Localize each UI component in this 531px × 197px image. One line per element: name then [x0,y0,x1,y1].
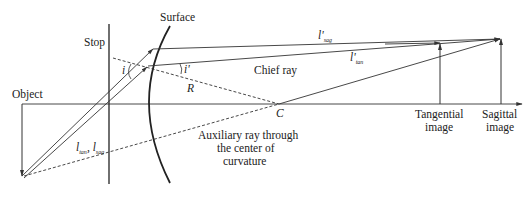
stop-label: Stop [84,36,105,49]
center-label: C [276,107,284,119]
angle-i-prime-arc [180,64,182,74]
angle-i-prime-label: i' [184,63,190,75]
surface-label: Surface [160,11,195,23]
object-distance-label: ltan, lsag [76,141,104,155]
auxiliary-ray-label-2: the center of [217,142,275,154]
chief-ray-label: Chief ray [254,64,297,77]
auxiliary-ray-label-3: curvature [223,155,266,167]
sagittal-image-label-1: Sagittal [482,108,517,121]
incident-ray-chief [24,67,147,178]
astigmatism-diagram: Stop Surface Object Chief ray i i' R C l… [0,0,531,197]
radius-label: R [186,82,194,94]
l-sag-prime-label: l'sag [318,29,332,43]
angle-i-label: i [122,64,125,76]
sagittal-image-label-2: image [486,121,514,134]
auxiliary-ray-label-1: Auxiliary ray through [198,129,299,142]
tangential-image-label-1: Tangential [415,108,463,121]
object-label: Object [12,88,43,101]
l-tan-prime-label: l'tan [350,51,363,65]
incident-ray-sagittal [22,49,153,176]
tangential-image-label-2: image [425,121,453,134]
refracted-ray-chief [148,39,500,66]
auxiliary-ray-solid [279,39,500,104]
